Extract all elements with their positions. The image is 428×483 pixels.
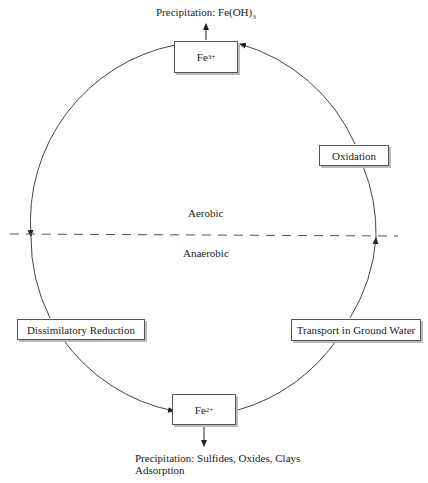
fe2-node: Fe2+ — [172, 394, 236, 425]
fe3-charge: 3+ — [208, 53, 215, 61]
transport-groundwater-node: Transport in Ground Water — [291, 319, 421, 341]
oxidation-label: Oxidation — [332, 150, 376, 162]
fe3-precipitation-text: Precipitation: Fe(OH) — [156, 6, 252, 18]
cycle-arc-left-upper — [30, 45, 175, 236]
fe3-precipitation-label: Precipitation: Fe(OH)3 — [156, 6, 256, 21]
fe3-node: Fe3+ — [174, 41, 238, 73]
cycle-arc-bottom-right — [238, 338, 338, 410]
fe2-precipitation-line2: Adsorption — [135, 464, 300, 476]
aerobic-zone-label: Aerobic — [188, 207, 223, 219]
transport-label: Transport in Ground Water — [297, 324, 416, 336]
cycle-arc-left-lower — [31, 236, 50, 318]
fe2-symbol: Fe — [195, 404, 206, 416]
fe3-precipitation-subscript: 3 — [252, 13, 256, 21]
reduction-label: Dissimilatory Reduction — [27, 324, 135, 336]
cycle-arc-right-mid — [363, 166, 376, 238]
aerobic-anaerobic-divider — [10, 234, 398, 236]
fe3-symbol: Fe — [197, 51, 208, 63]
cycle-arc-right-upper — [240, 44, 355, 144]
cycle-arc-bottom-left — [62, 338, 174, 411]
oxidation-node: Oxidation — [319, 145, 389, 166]
dissimilatory-reduction-node: Dissimilatory Reduction — [17, 319, 145, 340]
fe2-charge: 2+ — [206, 406, 213, 414]
fe2-precipitation-label: Precipitation: Sulfides, Oxides, Clays A… — [135, 452, 300, 476]
fe2-precipitation-line1: Precipitation: Sulfides, Oxides, Clays — [135, 452, 300, 464]
anaerobic-zone-label: Anaerobic — [183, 247, 229, 259]
cycle-arc-right-lower — [350, 238, 376, 318]
